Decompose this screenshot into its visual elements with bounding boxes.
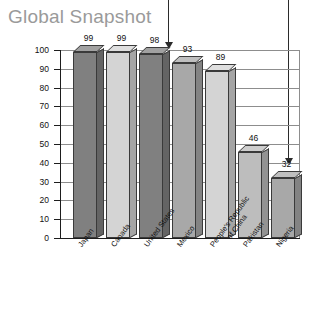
- bar-nigeria: 32: [271, 50, 302, 238]
- y-tick-30: [54, 182, 60, 183]
- y-tick-label-20: 20: [40, 196, 49, 205]
- bar-side: [130, 48, 137, 238]
- y-tick-80: [54, 88, 60, 89]
- y-tick-label-100: 100: [35, 46, 49, 55]
- y-tick-60: [54, 125, 60, 126]
- bar-japan: 99: [73, 50, 104, 238]
- y-tick-100: [54, 50, 60, 51]
- y-tick-label-40: 40: [40, 159, 49, 168]
- y-tick-label-50: 50: [40, 140, 49, 149]
- y-tick-label-60: 60: [40, 121, 49, 130]
- y-tick-label-90: 90: [40, 65, 49, 74]
- y-tick-90: [54, 69, 60, 70]
- bar-value-label: 89: [201, 53, 241, 62]
- y-tick-label-30: 30: [40, 177, 49, 186]
- y-tick-20: [54, 200, 60, 201]
- bar-canada: 99: [106, 50, 137, 238]
- y-tick-0: [54, 238, 60, 239]
- bar-value-label: 46: [234, 134, 274, 143]
- page-title: Global Snapshot: [8, 6, 152, 28]
- y-tick-label-0: 0: [44, 234, 49, 243]
- bar-value-label: 98: [135, 36, 175, 45]
- chart-page: Global Snapshot 0102030405060708090100 9…: [0, 0, 315, 312]
- bar-front: [73, 52, 97, 238]
- bar-value-label: 32: [267, 160, 307, 169]
- y-tick-70: [54, 106, 60, 107]
- bar-side: [196, 59, 203, 238]
- bar-front: [106, 52, 130, 238]
- y-tick-10: [54, 219, 60, 220]
- bar-front: [205, 71, 229, 238]
- y-tick-label-10: 10: [40, 215, 49, 224]
- bar-mexico: 93: [172, 50, 203, 238]
- y-tick-50: [54, 144, 60, 145]
- bar-front: [139, 54, 163, 238]
- y-tick-label-70: 70: [40, 102, 49, 111]
- plot-area: 0102030405060708090100 99999893894632: [60, 50, 300, 238]
- bar-side: [295, 174, 302, 238]
- y-tick-40: [54, 163, 60, 164]
- bar-side: [97, 48, 104, 238]
- axis-left: [60, 50, 61, 239]
- y-tick-label-80: 80: [40, 83, 49, 92]
